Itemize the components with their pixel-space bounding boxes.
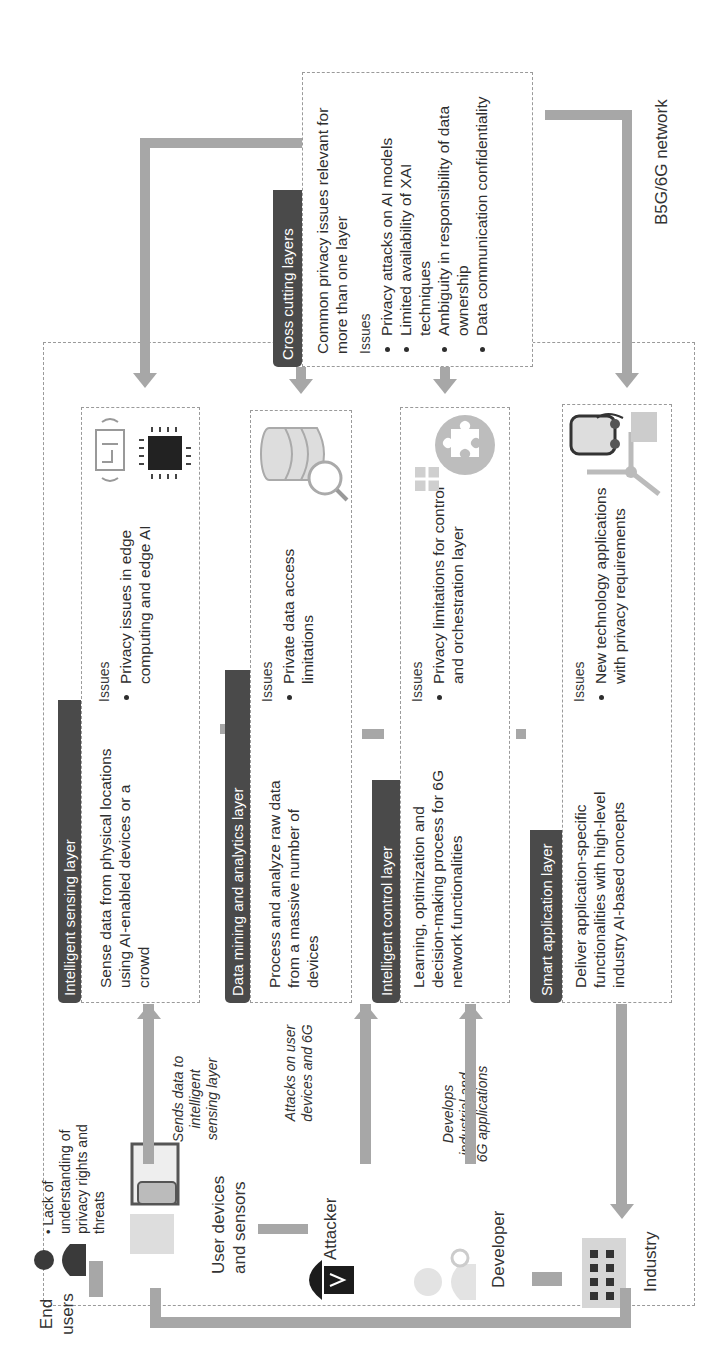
devices-to-sensing-arrow	[143, 1004, 154, 1164]
brain-puzzle-icon	[407, 411, 503, 497]
issue-item: Data communication confidentiality	[472, 86, 491, 336]
datamining-layer-tab: Data mining and analytics layer	[225, 670, 250, 1003]
arrowhead	[289, 379, 313, 394]
arrowhead	[133, 373, 157, 388]
cross-cutting-box: Common privacy issues relevant for more …	[302, 72, 533, 367]
end-user-icon	[30, 1240, 90, 1280]
circuit-board-and-chip-icon	[92, 412, 192, 492]
developer-label: Developer	[488, 1211, 509, 1289]
sensing-layer-tab: Intelligent sensing layer	[58, 700, 81, 1003]
datamining-layer-box: Process and analyze raw data from a mass…	[250, 410, 352, 1003]
smart-app-layer-description: Deliver application-specific functionali…	[571, 758, 628, 988]
cross-to-smart-arrow-shaft	[622, 110, 632, 374]
arrowhead	[433, 379, 457, 394]
sensing-issues-list: Privacy issues in edge computing and edg…	[116, 494, 154, 702]
end-users-label: End users	[36, 1284, 78, 1344]
attacker-label: Attacker	[320, 1198, 341, 1260]
issues-title: Issues	[259, 662, 275, 702]
cross-to-sensing-arrow-shaft	[140, 138, 150, 374]
smart-app-to-industry-arrow	[616, 1004, 627, 1204]
wind-turbine-ev-icon	[567, 406, 667, 502]
issue-item: Privacy issues in edge computing and edg…	[116, 494, 154, 684]
arrowhead	[137, 1004, 161, 1019]
industry-label: Industry	[640, 1232, 661, 1292]
issue-item: Privacy attacks on AI models	[377, 86, 396, 336]
control-issues-list: Privacy limitations for control and orch…	[429, 484, 467, 702]
issue-item: New technology applications with privacy…	[591, 484, 629, 684]
issues-title: Issues	[571, 662, 587, 702]
developer-icon	[410, 1244, 480, 1304]
cross-cutting-title: Cross cutting layers	[280, 228, 295, 360]
developer-to-industry-arrow	[532, 1272, 562, 1286]
database-search-icon	[255, 412, 349, 502]
sensing-layer-box: Sense data from physical locations using…	[81, 407, 200, 1003]
cross-cutting-issues-title: Issues	[357, 85, 373, 354]
control-layer-tab: Intelligent control layer	[372, 780, 400, 1003]
sensing-layer-description: Sense data from physical locations using…	[96, 748, 153, 988]
cross-to-datamining-arrow	[296, 367, 306, 379]
control-layer-title: Intelligent control layer	[379, 846, 394, 996]
datamining-layer-title: Data mining and analytics layer	[230, 788, 245, 996]
smart-app-issues-list: New technology applications with privacy…	[591, 484, 629, 702]
control-layer-description: Learning, optimization and decision-maki…	[409, 758, 466, 988]
sensing-layer-title: Intelligent sensing layer	[62, 839, 77, 996]
user-devices-label: User devices and sensors	[208, 1154, 250, 1274]
cross-cutting-issues-list: Privacy attacks on AI models Limited ava…	[377, 86, 491, 354]
smart-app-layer-title: Smart application layer	[539, 843, 554, 996]
attacker-icon	[300, 1256, 356, 1304]
diagram-stage: B5G/6G network Cross cutting layers Comm…	[0, 0, 724, 1364]
cross-to-sensing-arrow	[140, 138, 302, 148]
issues-title: Issues	[409, 662, 425, 702]
loop-arrow-segment	[620, 1288, 631, 1328]
developer-to-control-arrow	[465, 1004, 476, 1164]
end-user-issue: • Lack of understanding of privacy right…	[40, 1104, 108, 1234]
datamining-layer-description: Process and analyze raw data from a mass…	[265, 768, 322, 988]
datamining-issues-list: Private data access limitations	[279, 494, 317, 702]
issue-item: Ambiguity in responsibility of data owne…	[434, 86, 472, 336]
smart-app-layer-box: Deliver application-specific functionali…	[562, 404, 672, 1003]
control-to-smart-arrow	[516, 729, 526, 739]
arrowhead	[610, 1204, 634, 1219]
cross-to-control-arrow	[440, 367, 450, 379]
smart-app-layer-tab: Smart application layer	[530, 830, 562, 1003]
attacks-label: Attacks on user devices and 6G	[282, 1018, 316, 1128]
attacker-to-datamining-arrow	[360, 1004, 371, 1164]
cross-to-smart-arrow	[545, 110, 632, 120]
network-label: B5G/6G network	[652, 99, 672, 225]
cross-cutting-description: Common privacy issues relevant for more …	[313, 94, 351, 354]
issue-item: Private data access limitations	[279, 494, 317, 684]
sends-data-label: Sends data to intelligent sensing layer	[170, 1044, 221, 1154]
industry-to-devices-loop-arrow	[150, 1317, 630, 1328]
arrowhead	[354, 1004, 378, 1019]
control-layer-box: Learning, optimization and decision-maki…	[400, 407, 510, 1003]
datamining-to-control-arrow	[362, 729, 384, 739]
end-users-to-devices-arrow	[89, 1261, 103, 1297]
issues-title: Issues	[96, 662, 112, 702]
arrowhead	[615, 373, 639, 388]
cross-cutting-tab: Cross cutting layers	[273, 190, 302, 367]
loop-arrow-segment	[150, 1288, 161, 1328]
attacker-to-devices-arrow	[258, 1224, 308, 1234]
arrowhead	[459, 1004, 483, 1019]
issue-item: Privacy limitations for control and orch…	[429, 484, 467, 684]
issue-item: Limited availability of XAI techniques	[396, 86, 434, 336]
